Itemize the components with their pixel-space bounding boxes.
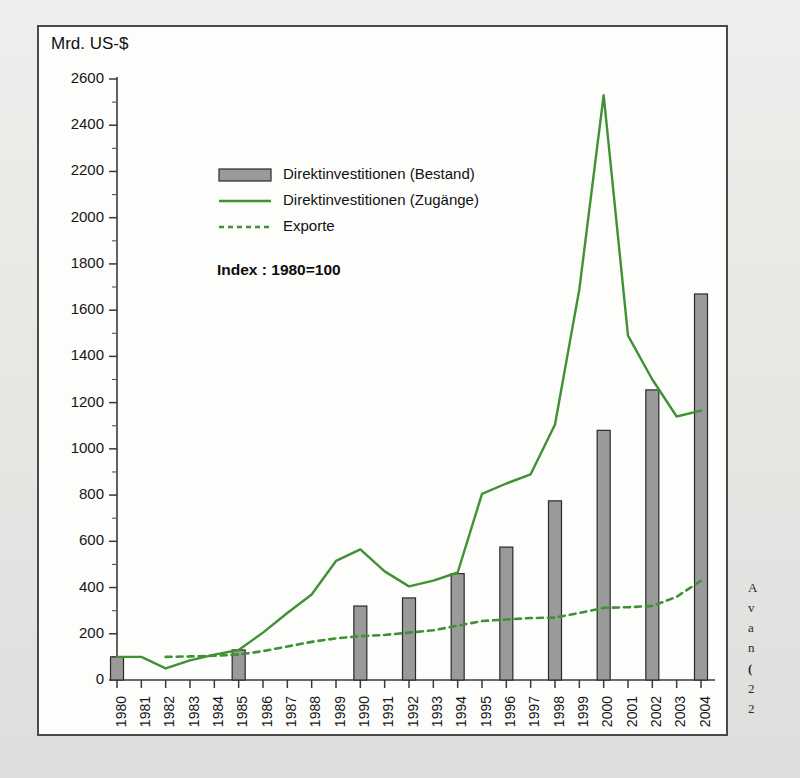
x-tick-label: 1984 [210, 696, 226, 727]
x-tick-label: 1982 [161, 696, 177, 727]
margin-note-line: v [748, 598, 800, 618]
chart-canvas: Mrd. US-$0200400600800100012001400160018… [39, 27, 726, 734]
bar [646, 390, 659, 680]
bar [111, 657, 124, 680]
bar [500, 547, 513, 680]
margin-note: Avan(22 [748, 578, 800, 719]
page-background: Mrd. US-$0200400600800100012001400160018… [0, 0, 800, 778]
x-tick-label: 2004 [697, 696, 713, 727]
x-tick-label: 1993 [429, 696, 445, 727]
margin-note-line: a [748, 618, 800, 638]
x-tick-label: 1983 [186, 696, 202, 727]
x-tick-label: 1996 [502, 696, 518, 727]
x-tick-label: 1989 [332, 696, 348, 727]
margin-note-line: 2 [748, 679, 800, 699]
x-tick-label: 1981 [137, 696, 153, 727]
x-tick-label: 1995 [478, 696, 494, 727]
y-tick-label: 2000 [71, 208, 104, 225]
margin-note-line: n [748, 638, 800, 658]
x-tick-label: 1991 [380, 696, 396, 727]
margin-note-line: 2 [748, 699, 800, 719]
x-tick-label: 1990 [356, 696, 372, 727]
bar [695, 294, 708, 680]
bar [354, 606, 367, 680]
x-tick-label: 2003 [672, 696, 688, 727]
y-tick-label: 2600 [71, 69, 104, 86]
x-tick-label: 1987 [283, 696, 299, 727]
legend-label: Direktinvestitionen (Bestand) [283, 165, 475, 182]
legend-label: Exporte [283, 217, 335, 234]
y-tick-label: 1200 [71, 393, 104, 410]
x-tick-label: 1985 [234, 696, 250, 727]
y-tick-label: 1800 [71, 254, 104, 271]
y-tick-label: 200 [79, 624, 104, 641]
y-axis-title: Mrd. US-$ [51, 34, 129, 53]
x-tick-label: 1994 [453, 696, 469, 727]
x-tick-label: 1980 [113, 696, 129, 727]
x-tick-label: 1997 [526, 696, 542, 727]
y-tick-label: 2200 [71, 161, 104, 178]
y-tick-label: 800 [79, 485, 104, 502]
y-tick-label: 1000 [71, 439, 104, 456]
y-tick-label: 0 [96, 670, 104, 687]
margin-note-line: A [748, 578, 800, 598]
legend: Direktinvestitionen (Bestand)Direktinves… [219, 165, 479, 234]
y-tick-label: 2400 [71, 115, 104, 132]
x-tick-label: 1992 [405, 696, 421, 727]
bar [403, 598, 416, 680]
x-tick-label: 1998 [551, 696, 567, 727]
index-annotation: Index : 1980=100 [217, 261, 341, 278]
x-tick-label: 1999 [575, 696, 591, 727]
y-tick-label: 1400 [71, 346, 104, 363]
legend-swatch-bar [219, 169, 271, 181]
y-tick-label: 400 [79, 578, 104, 595]
margin-note-line: ( [748, 659, 800, 679]
bar-series [111, 294, 708, 680]
bar [549, 501, 562, 680]
figure-frame: Mrd. US-$0200400600800100012001400160018… [37, 25, 728, 736]
y-tick-label: 600 [79, 531, 104, 548]
x-tick-label: 2000 [599, 696, 615, 727]
x-tick-label: 2001 [624, 696, 640, 727]
bar [597, 430, 610, 680]
y-tick-label: 1600 [71, 300, 104, 317]
legend-label: Direktinvestitionen (Zugänge) [283, 191, 479, 208]
x-tick-label: 1988 [307, 696, 323, 727]
x-tick-label: 1986 [259, 696, 275, 727]
x-tick-label: 2002 [648, 696, 664, 727]
